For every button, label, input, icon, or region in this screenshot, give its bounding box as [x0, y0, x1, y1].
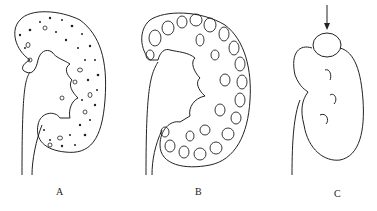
- kidney-b-drawing: [142, 13, 251, 175]
- panel-label-c: C: [334, 188, 341, 199]
- kidney-figure: A B C: [0, 0, 377, 211]
- panel-label-a: A: [56, 186, 63, 197]
- kidney-illustration: [0, 0, 377, 211]
- kidney-c-drawing: [292, 5, 363, 175]
- kidney-a-drawing: [15, 12, 106, 175]
- panel-label-b: B: [195, 186, 202, 197]
